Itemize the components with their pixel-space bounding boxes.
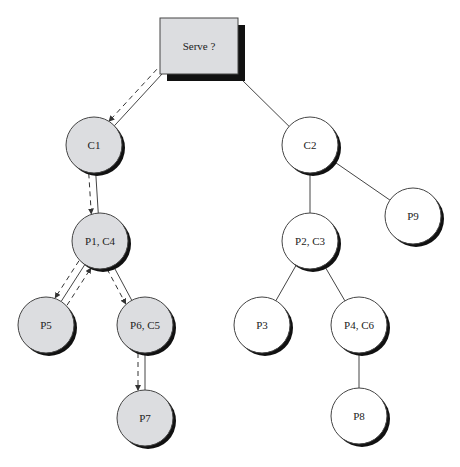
root-label: Serve ? [183,40,216,52]
node-label: P6, C5 [130,319,160,331]
node-label: P3 [256,319,268,331]
root-query-box: Serve ? [160,18,245,81]
search-arrow-P1C4-P6C5 [107,269,126,304]
node-label: P7 [139,412,151,424]
node-C2: C2 [282,117,341,176]
search-arrow-C1-P1C4 [89,173,92,213]
edge-root-C1 [114,74,162,126]
search-arrow-root-C1 [109,69,157,121]
node-label: P2, C3 [295,235,325,247]
node-label: P4, C6 [344,319,374,331]
node-P9: P9 [385,188,444,247]
edge-C1-P1C4 [96,173,99,213]
node-P1C4: P1, C4 [72,213,131,272]
edge-P2C3-P3 [276,265,296,300]
edge-P2C3-P4C6 [324,265,345,301]
edge-C2-P9 [333,161,390,200]
node-C1: C1 [66,117,125,176]
edge-P1C4-P6C5 [113,266,132,301]
node-P3: P3 [234,297,293,356]
node-label: P5 [40,319,52,331]
node-label: C2 [304,139,317,151]
node-label: C1 [88,139,101,151]
node-P5: P5 [18,297,77,356]
edge-root-C2 [238,76,289,126]
node-label: P9 [407,210,419,222]
node-P8: P8 [331,388,390,447]
node-P6C5: P6, C5 [117,297,176,356]
node-P7: P7 [117,390,176,449]
node-label: P8 [353,410,365,422]
node-P4C6: P4, C6 [331,297,390,356]
tree-nodes: C1P1, C4P5P6, C5P7C2P2, C3P9P3P4, C6P8 [18,117,444,449]
node-P2C3: P2, C3 [282,213,341,272]
node-label: P1, C4 [85,235,115,247]
search-tree-diagram: Serve ? C1P1, C4P5P6, C5P7C2P2, C3P9P3P4… [0,0,460,467]
